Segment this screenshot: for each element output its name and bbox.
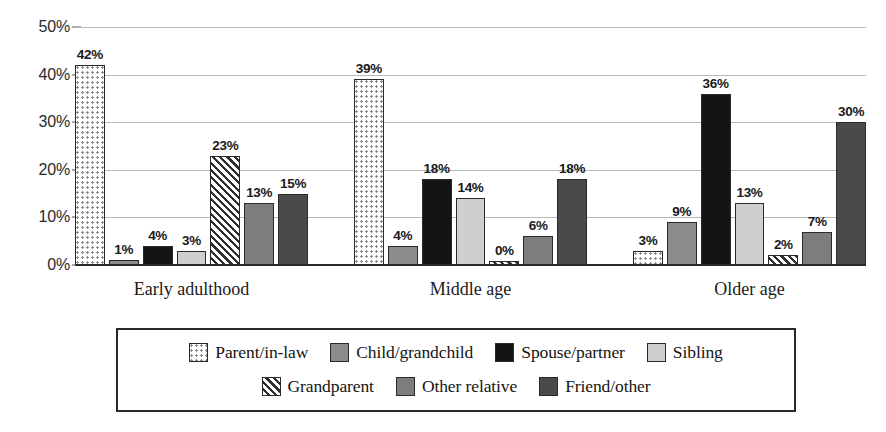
bar: 0% [489,261,519,265]
legend-swatch-icon [539,377,558,396]
legend-item[interactable]: Parent/in-law [189,342,308,363]
legend-swatch-icon [189,343,208,362]
legend-item[interactable]: Sibling [647,342,723,363]
legend-swatch-icon [262,377,281,396]
legend-label: Friend/other [565,376,650,397]
bar-value-label: 36% [703,76,729,91]
bar-value-label: 0% [495,243,514,258]
bar-value-label: 23% [212,138,238,153]
y-tick-label: 20% [8,161,70,179]
legend-item[interactable]: Spouse/partner [495,342,625,363]
legend-swatch-icon [330,343,349,362]
legend-item[interactable]: Friend/other [539,376,650,397]
y-axis: 0%10%20%30%40%50% [8,0,70,310]
bar: 42% [75,65,105,265]
legend-item[interactable]: Grandparent [262,376,374,397]
legend-swatch-icon [647,343,666,362]
bar: 13% [244,203,274,265]
bar: 4% [388,246,418,265]
bars-layer: 42%1%4%3%23%13%15%39%4%18%14%0%6%18%3%9%… [75,0,866,310]
bar: 14% [456,198,486,265]
bar-value-label: 9% [672,204,691,219]
bar: 18% [557,179,587,265]
y-tick-label: 10% [8,208,70,226]
bar-value-label: 39% [356,61,382,76]
legend-label: Sibling [673,342,723,363]
bar-value-label: 4% [393,228,412,243]
legend-label: Child/grandchild [356,342,473,363]
bar: 30% [836,122,866,265]
bar: 2% [768,255,798,265]
bar-value-label: 13% [246,185,272,200]
bar-value-label: 18% [424,161,450,176]
bar-value-label: 2% [774,237,793,252]
bar-value-label: 14% [457,180,483,195]
bar-value-label: 15% [280,176,306,191]
bar-value-label: 1% [114,242,133,257]
y-tick-label: 30% [8,113,70,131]
bar-value-label: 4% [148,228,167,243]
bar: 18% [422,179,452,265]
bar: 36% [701,94,731,265]
bar: 1% [109,260,139,265]
bar: 7% [802,232,832,265]
legend-row-secondary: GrandparentOther relativeFriend/other [118,369,794,403]
bar: 4% [143,246,173,265]
legend-label: Grandparent [288,376,374,397]
legend-item[interactable]: Other relative [396,376,517,397]
plot-area: 0%10%20%30%40%50% 42%1%4%3%23%13%15%39%4… [0,0,886,310]
bar-value-label: 30% [838,104,864,119]
bar: 39% [354,79,384,265]
bar-value-label: 42% [77,47,103,62]
bar: 6% [523,236,553,265]
legend-label: Spouse/partner [521,342,625,363]
y-tick-label: 40% [8,66,70,84]
bar-value-label: 18% [559,161,585,176]
bar: 15% [278,194,308,265]
bar-value-label: 7% [808,214,827,229]
legend-swatch-icon [495,343,514,362]
legend-swatch-icon [396,377,415,396]
bar-value-label: 13% [736,185,762,200]
x-axis-category-label: Older age [714,279,784,300]
x-axis-category-label: Early adulthood [134,279,249,300]
legend-row-primary: Parent/in-lawChild/grandchildSpouse/part… [118,335,794,369]
legend-label: Other relative [422,376,517,397]
legend-item[interactable]: Child/grandchild [330,342,473,363]
bar: 3% [177,251,207,265]
bar-chart: 0%10%20%30%40%50% 42%1%4%3%23%13%15%39%4… [0,0,886,432]
x-axis-category-label: Middle age [430,279,511,300]
bar-value-label: 3% [638,233,657,248]
bar: 13% [735,203,765,265]
legend: Parent/in-lawChild/grandchildSpouse/part… [116,328,796,412]
bar-value-label: 3% [182,233,201,248]
y-tick-label: 50% [8,18,70,36]
y-tick-label: 0% [8,256,70,274]
bar: 23% [210,156,240,265]
bar: 3% [633,251,663,265]
bar-value-label: 6% [529,218,548,233]
bar: 9% [667,222,697,265]
legend-label: Parent/in-law [215,342,308,363]
